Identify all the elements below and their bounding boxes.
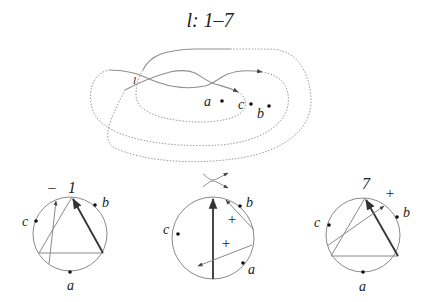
point-c: [176, 232, 180, 236]
point-b: [395, 215, 399, 219]
chord-arrow: [49, 201, 56, 264]
chord-bold-arrow: [73, 199, 103, 253]
figure-title: l: 1–7: [186, 9, 234, 31]
chord-circle: [326, 198, 400, 272]
label-b: b: [246, 195, 253, 210]
knot-point-b: [267, 104, 271, 108]
label-a: a: [67, 278, 74, 293]
label-c: c: [314, 215, 321, 230]
knot-label-c: c: [238, 97, 245, 112]
knot-strand-lower: [125, 71, 238, 92]
knot-label-b: b: [257, 106, 264, 121]
point-b: [238, 204, 242, 208]
point-b: [93, 203, 97, 207]
chord-circle: [33, 197, 107, 271]
chord-bold-arrow: [366, 200, 398, 256]
label-c: c: [22, 214, 29, 229]
label-b: b: [403, 205, 410, 220]
crossing-smoothing-icon: [203, 173, 228, 188]
point-a: [241, 261, 245, 265]
chord-diagram-left: 1 – b c a: [22, 179, 109, 293]
sign-minus: –: [47, 179, 56, 195]
chord: [331, 198, 365, 256]
point-c: [34, 219, 38, 223]
knot-diagram: l a c b: [90, 49, 311, 162]
top-label: 7: [362, 175, 371, 192]
knot-point-a: [220, 99, 224, 103]
sign-plus: +: [222, 235, 230, 251]
figure-canvas: l: 1–7 l a c b 1 – b c a: [0, 0, 421, 302]
knot-crossing-label: l: [133, 74, 136, 86]
sign-plus: +: [386, 185, 394, 201]
point-a: [68, 270, 72, 274]
label-a: a: [359, 279, 366, 294]
top-label: 1: [68, 179, 76, 196]
chord-arrow: [327, 206, 384, 246]
sign-plus: +: [228, 211, 236, 227]
label-c: c: [163, 222, 170, 237]
chord-diagram-right: 7 + b c a: [314, 175, 410, 294]
label-a: a: [248, 262, 255, 277]
point-a: [361, 270, 365, 274]
knot-point-c: [249, 102, 253, 106]
knot-label-a: a: [204, 94, 211, 109]
chord-diagram-middle: + + b c a: [163, 173, 255, 279]
point-c: [327, 223, 331, 227]
label-b: b: [102, 195, 109, 210]
knot-strand-top: [143, 49, 230, 70]
